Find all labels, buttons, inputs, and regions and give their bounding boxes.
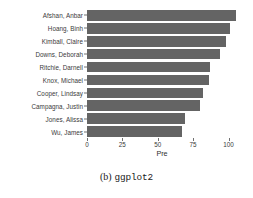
bar-row: Jones, Alissa xyxy=(87,112,237,125)
x-tick-label: 100 xyxy=(223,141,234,148)
y-tick-label: Ritchie, Darnell xyxy=(40,64,84,71)
y-tick-label: Wu, James xyxy=(51,128,83,135)
y-tick-label: Jones, Alissa xyxy=(46,115,83,122)
chart-plot-area: Afshan, AnbarHoang, BinhKimball, ClaireD… xyxy=(0,0,253,160)
y-tick-label: Knox, Michael xyxy=(43,76,83,83)
bar-row: Downs, Deborah xyxy=(87,48,237,61)
bar-row: Ritchie, Darnell xyxy=(87,61,237,74)
y-tick-label: Cooper, Lindsay xyxy=(37,89,83,96)
bar xyxy=(87,49,220,60)
y-tick-label: Kimball, Claire xyxy=(42,38,83,45)
bar xyxy=(87,113,185,124)
x-axis: Pre 0255075100 xyxy=(87,138,237,160)
bar xyxy=(87,100,200,111)
bar-row: Campagna, Justin xyxy=(87,99,237,112)
y-tick-label: Downs, Deborah xyxy=(35,51,83,58)
bar-row: Knox, Michael xyxy=(87,74,237,87)
x-tick-label: 0 xyxy=(85,141,89,148)
y-tick-label: Campagna, Justin xyxy=(31,102,83,109)
x-axis-title: Pre xyxy=(87,149,237,158)
bar-row: Afshan, Anbar xyxy=(87,9,237,22)
bar xyxy=(87,62,210,73)
x-tick-label: 25 xyxy=(119,141,126,148)
x-tick-label: 75 xyxy=(190,141,197,148)
bar xyxy=(87,10,236,21)
bar-row: Wu, James xyxy=(87,125,237,138)
bar xyxy=(87,126,182,137)
y-tick-label: Hoang, Binh xyxy=(48,25,83,32)
figure-caption: (b) ggplot2 xyxy=(0,171,253,183)
bar xyxy=(87,75,209,86)
bars-layer: Afshan, AnbarHoang, BinhKimball, ClaireD… xyxy=(87,9,237,138)
bar xyxy=(87,36,226,47)
bar xyxy=(87,88,203,99)
caption-index: (b) xyxy=(100,171,112,182)
bar xyxy=(87,23,230,34)
caption-name: ggplot2 xyxy=(114,172,153,183)
figure-panel: Afshan, AnbarHoang, BinhKimball, ClaireD… xyxy=(0,0,253,198)
y-tick-label: Afshan, Anbar xyxy=(43,12,83,19)
bar-row: Cooper, Lindsay xyxy=(87,86,237,99)
bar-row: Hoang, Binh xyxy=(87,22,237,35)
bar-row: Kimball, Claire xyxy=(87,35,237,48)
x-tick-label: 50 xyxy=(154,141,161,148)
